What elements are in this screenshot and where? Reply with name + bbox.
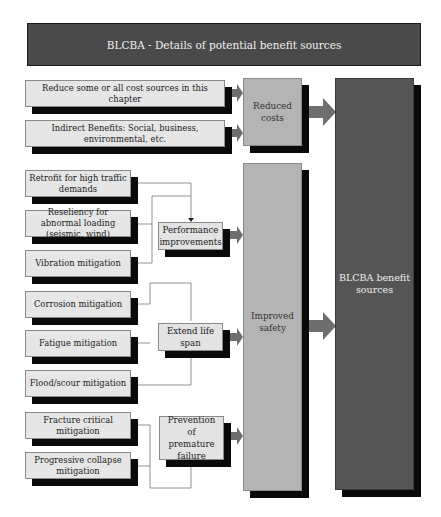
source-fracture-critical: Fracture critical mitigation [25,412,131,439]
source-progressive-collapse: Progressive collapse mitigation [25,452,131,479]
source-reduce-cost-sources: Reduce some or all cost sources in this … [25,80,225,107]
source-indirect-benefits: Indirect Benefits: Social, business, env… [25,120,225,147]
source-fatigue: Fatigue mitigation [25,330,131,357]
category-improved-safety: Improved safety [243,163,302,491]
source-flood-scour: Flood/scour mitigation [25,370,131,397]
intermediate-performance: Performance improvements [158,222,223,250]
intermediate-extend-life: Extend life span [158,323,223,351]
final-blcba-benefit-sources: BLCBA benefit sources [335,78,414,490]
source-corrosion: Corrosion mitigation [25,291,131,318]
source-vibration: Vibration mitigation [25,250,131,277]
intermediate-prevention: Prevention of premature failure [159,416,224,460]
category-reduced-costs: Reduced costs [243,78,302,146]
source-retrofit: Retrofit for high traffic demands [25,170,131,197]
source-resiliency: Reseliency for abnormal loading (seismic… [25,210,131,237]
